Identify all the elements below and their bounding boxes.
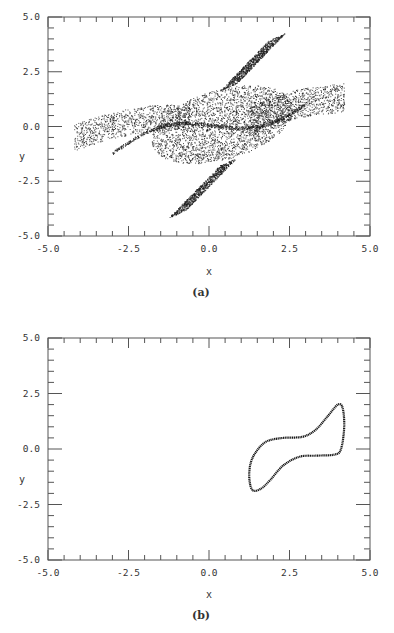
panel-b-limit-cycle — [249, 404, 344, 491]
y-tick-label: -2.5 — [17, 175, 40, 186]
panel-b-caption: (b) — [192, 609, 210, 622]
y-tick-label: -5.0 — [17, 554, 40, 565]
panel-b-frame — [48, 338, 370, 560]
limit-cycle-curve — [249, 404, 344, 491]
panel-b-y-axis-label: y — [19, 474, 25, 485]
panel-a-attractor-points — [74, 34, 345, 219]
panel-b-chart: -5.0-2.50.02.55.0-5.0-2.50.02.55.0 x y (… — [17, 332, 379, 622]
y-tick-label: -2.5 — [17, 499, 40, 510]
panel-a-ticks: -5.0-2.50.02.55.0-5.0-2.50.02.55.0 — [17, 11, 379, 254]
x-tick-label: 2.5 — [281, 243, 298, 254]
panel-a-chart: -5.0-2.50.02.55.0-5.0-2.50.02.55.0 x y (… — [17, 11, 379, 299]
x-tick-label: -5.0 — [37, 567, 60, 578]
x-tick-label: 0.0 — [200, 243, 217, 254]
y-tick-label: 5.0 — [23, 332, 40, 343]
y-tick-label: 2.5 — [23, 388, 40, 399]
y-tick-label: 5.0 — [23, 11, 40, 22]
y-tick-label: 0.0 — [23, 121, 40, 132]
y-tick-label: 2.5 — [23, 66, 40, 77]
y-tick-label: -5.0 — [17, 230, 40, 241]
panel-a-caption: (a) — [192, 286, 210, 299]
figure: -5.0-2.50.02.55.0-5.0-2.50.02.55.0 x y (… — [0, 0, 394, 633]
panel-a-x-axis-label: x — [206, 266, 212, 277]
y-tick-label: 0.0 — [23, 443, 40, 454]
x-tick-label: 5.0 — [361, 567, 378, 578]
x-tick-label: 5.0 — [361, 243, 378, 254]
x-tick-label: -2.5 — [117, 567, 140, 578]
x-tick-label: 2.5 — [281, 567, 298, 578]
panel-b-x-axis-label: x — [206, 589, 212, 600]
x-tick-label: -2.5 — [117, 243, 140, 254]
x-tick-label: 0.0 — [200, 567, 217, 578]
x-tick-label: -5.0 — [37, 243, 60, 254]
panel-a-y-axis-label: y — [19, 151, 25, 162]
